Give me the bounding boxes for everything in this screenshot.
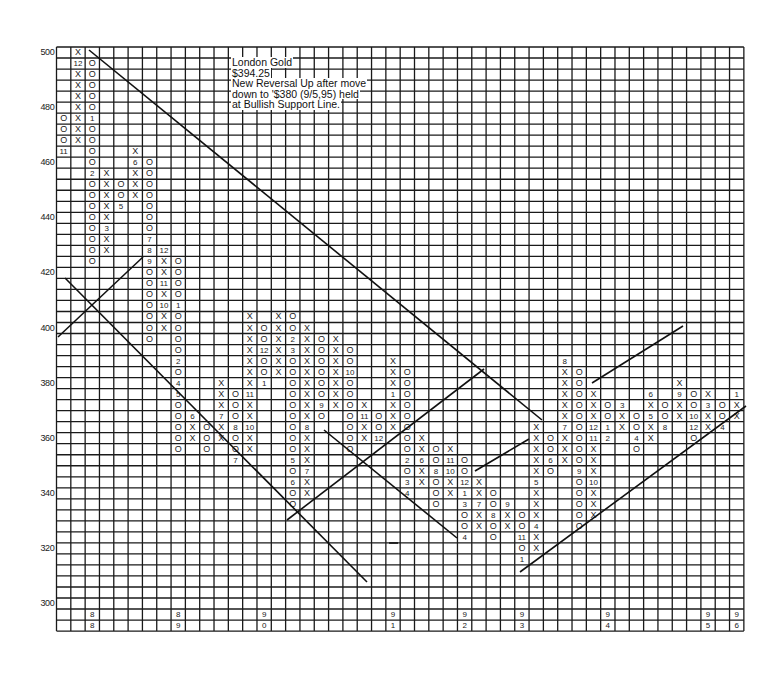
annotation-line-5: at Bullish Support Line. xyxy=(231,99,341,110)
annotation-title: London Gold xyxy=(231,57,293,68)
bullish-support-line-mid xyxy=(287,369,484,520)
bullish-support-line-main xyxy=(520,406,746,572)
trendlines xyxy=(0,0,768,674)
bullish-channel-line xyxy=(592,326,683,383)
chart-annotation: London Gold $394.25 New Reversal Up afte… xyxy=(231,57,367,110)
point-and-figure-chart: 500480460440420400380360340320300 OOO11X… xyxy=(0,0,768,674)
bearish-resistance-line-mid xyxy=(65,278,367,582)
bearish-resistance-line-short xyxy=(324,430,457,538)
bullish-support-line-short xyxy=(475,439,529,471)
annotation-line-3: New Reversal Up after move xyxy=(231,78,367,89)
bullish-support-line-early xyxy=(58,257,143,337)
